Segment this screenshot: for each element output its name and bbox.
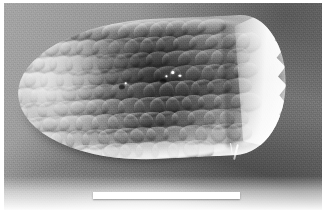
charging-highlight: [179, 74, 181, 76]
surface-pit: [160, 79, 167, 84]
scale-plate: [171, 33, 198, 52]
scale-plate: [123, 112, 154, 130]
scale-plate: [181, 94, 205, 111]
scale-plate: [190, 79, 214, 97]
scale-plate: [123, 35, 155, 59]
scale-plate: [133, 96, 165, 118]
scale-plate: [120, 67, 144, 84]
scale-plate: [184, 63, 215, 86]
scale-plate: [117, 97, 145, 118]
scale-plate: [97, 52, 129, 74]
specimen: [15, 13, 289, 165]
scale-plate: [104, 67, 131, 85]
scale-plate: [142, 80, 175, 103]
anterior-cap: [15, 35, 106, 151]
charging-highlight: [171, 70, 175, 73]
charging-highlight: [125, 82, 127, 84]
sem-micrograph: [4, 3, 322, 210]
scale-plate: [126, 81, 155, 102]
scale-plate: [174, 79, 201, 99]
scale-plate: [113, 51, 141, 71]
scale-plate: [168, 64, 201, 87]
specimen-body: [15, 13, 289, 165]
scale-bar: [93, 192, 240, 199]
scale-plate: [171, 110, 196, 127]
scale-plate: [161, 49, 192, 69]
scale-plate: [187, 109, 216, 128]
scale-plate: [136, 66, 161, 84]
scale-plate: [165, 95, 192, 113]
scale-plate: [155, 34, 180, 53]
scale-plate: [149, 96, 180, 116]
surface-pit: [118, 84, 124, 89]
figure-frame: [0, 0, 326, 222]
scale-plate: [129, 51, 153, 69]
scale-plate: [107, 113, 138, 133]
scale-plate: [155, 111, 178, 127]
scale-plate: [177, 48, 210, 71]
scale-plate: [197, 94, 222, 111]
scale-plate: [139, 112, 166, 129]
scale-plate: [187, 32, 218, 52]
scale-plate: [101, 98, 125, 117]
charging-highlight: [165, 76, 167, 78]
scale-plate: [145, 50, 171, 68]
scale-plate: [139, 35, 167, 57]
scale-plate: [107, 36, 141, 60]
scale-plate: [193, 47, 224, 71]
